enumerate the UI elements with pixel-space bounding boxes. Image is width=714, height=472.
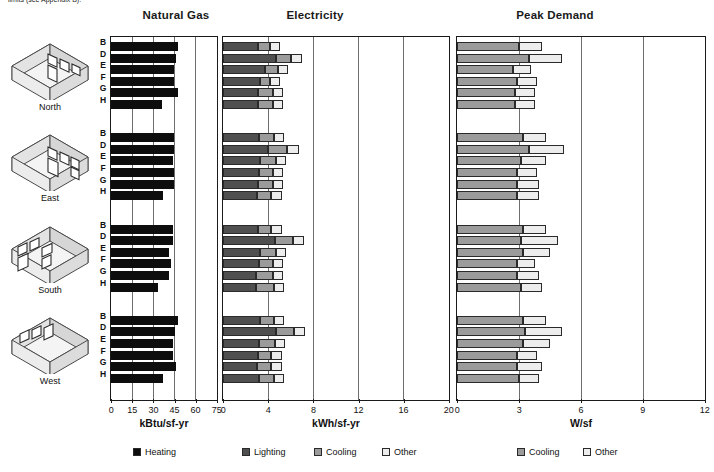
segment-lighting bbox=[223, 225, 258, 234]
segment-other bbox=[275, 339, 285, 348]
segment-cooling bbox=[260, 316, 274, 325]
panel-title-natural-gas: Natural Gas bbox=[126, 9, 226, 21]
segment-cooling bbox=[259, 133, 274, 142]
segment-other bbox=[523, 225, 546, 234]
segment-cooling bbox=[259, 339, 275, 348]
tick-peak-3: 3 bbox=[517, 405, 522, 415]
legend-label-cooling: Cooling bbox=[529, 447, 560, 457]
segment-cooling bbox=[258, 225, 272, 234]
building-icon-west: West bbox=[4, 306, 96, 396]
legend-swatch-cooling-icon bbox=[314, 448, 322, 456]
case-label-south-e: E bbox=[96, 243, 110, 253]
case-label-north-g: G bbox=[96, 83, 110, 93]
segment-cooling bbox=[457, 77, 517, 86]
case-label-west-d: D bbox=[96, 322, 110, 332]
segment-lighting bbox=[223, 133, 259, 142]
tickmark-elec-4 bbox=[268, 399, 269, 403]
tick-elec-0: 0 bbox=[221, 405, 226, 415]
segment-heating bbox=[111, 133, 174, 142]
segment-lighting bbox=[223, 42, 258, 51]
tickmark-elec-12 bbox=[359, 399, 360, 403]
tickmark-elec-16 bbox=[404, 399, 405, 403]
case-label-west-g: G bbox=[96, 357, 110, 367]
segment-lighting bbox=[223, 327, 276, 336]
segment-cooling bbox=[457, 351, 517, 360]
segment-other bbox=[515, 100, 536, 109]
segment-other bbox=[529, 145, 564, 154]
orientation-label-west: West bbox=[4, 376, 96, 386]
segment-other bbox=[291, 54, 302, 63]
tickmark-gas-0 bbox=[111, 399, 112, 403]
segment-lighting bbox=[223, 100, 258, 109]
segment-other bbox=[519, 374, 540, 383]
segment-other bbox=[517, 180, 540, 189]
segment-other bbox=[273, 180, 283, 189]
axis-peak-demand: 036912W/sf bbox=[456, 403, 706, 425]
plot-natural-gas bbox=[110, 36, 218, 401]
segment-cooling bbox=[457, 259, 517, 268]
panel-title-peak-demand: Peak Demand bbox=[500, 9, 610, 21]
legend-peak-demand: CoolingOther bbox=[517, 447, 714, 461]
case-label-south-b: B bbox=[96, 220, 110, 230]
segment-cooling bbox=[457, 156, 521, 165]
segment-lighting bbox=[223, 156, 260, 165]
case-label-north-e: E bbox=[96, 60, 110, 70]
tickmark-peak-6 bbox=[581, 399, 582, 403]
tick-gas-45: 45 bbox=[170, 405, 180, 415]
segment-lighting bbox=[223, 65, 265, 74]
segment-cooling bbox=[457, 133, 523, 142]
segment-heating bbox=[111, 362, 176, 371]
segment-lighting bbox=[223, 271, 256, 280]
segment-other bbox=[271, 225, 281, 234]
segment-heating bbox=[111, 225, 173, 234]
segment-heating bbox=[111, 100, 162, 109]
segment-heating bbox=[111, 156, 173, 165]
axis-label-elec: kWh/sf-yr bbox=[222, 417, 450, 429]
gridline-elec-8 bbox=[313, 37, 314, 400]
legend-item-other: Other bbox=[583, 447, 618, 457]
segment-other bbox=[521, 156, 546, 165]
segment-other bbox=[521, 283, 542, 292]
segment-other bbox=[517, 259, 536, 268]
segment-heating bbox=[111, 316, 178, 325]
tickmark-gas-30 bbox=[153, 399, 154, 403]
segment-cooling bbox=[259, 374, 274, 383]
segment-heating bbox=[111, 327, 175, 336]
segment-cooling bbox=[457, 191, 517, 200]
case-label-north-h: H bbox=[96, 95, 110, 105]
segment-cooling bbox=[256, 283, 274, 292]
segment-heating bbox=[111, 77, 174, 86]
segment-other bbox=[517, 362, 542, 371]
panel-title-electricity: Electricity bbox=[260, 9, 370, 21]
segment-cooling bbox=[457, 374, 519, 383]
segment-cooling bbox=[457, 100, 515, 109]
segment-heating bbox=[111, 271, 169, 280]
segment-lighting bbox=[223, 88, 258, 97]
case-label-west-f: F bbox=[96, 346, 110, 356]
case-label-east-h: H bbox=[96, 186, 110, 196]
orientation-label-south: South bbox=[4, 285, 96, 295]
axis-electricity: 048121620kWh/sf-yr bbox=[222, 403, 450, 425]
segment-heating bbox=[111, 191, 163, 200]
segment-other bbox=[273, 259, 283, 268]
segment-cooling bbox=[258, 100, 273, 109]
tickmark-gas-45 bbox=[175, 399, 176, 403]
gridline-elec-16 bbox=[403, 37, 404, 400]
segment-heating bbox=[111, 236, 173, 245]
clipped-top-note: limits (see Appendix B). bbox=[8, 0, 81, 3]
legend-label-other: Other bbox=[595, 447, 618, 457]
segment-cooling bbox=[457, 180, 517, 189]
segment-cooling bbox=[457, 339, 523, 348]
segment-other bbox=[273, 168, 283, 177]
legend-item-cooling: Cooling bbox=[517, 447, 560, 457]
segment-other bbox=[517, 271, 540, 280]
segment-lighting bbox=[223, 339, 259, 348]
segment-other bbox=[517, 77, 538, 86]
segment-heating bbox=[111, 65, 174, 74]
segment-cooling bbox=[457, 327, 525, 336]
legend-label-lighting: Lighting bbox=[254, 447, 286, 457]
segment-cooling bbox=[457, 225, 523, 234]
segment-heating bbox=[111, 180, 174, 189]
segment-other bbox=[273, 88, 283, 97]
segment-other bbox=[274, 283, 284, 292]
